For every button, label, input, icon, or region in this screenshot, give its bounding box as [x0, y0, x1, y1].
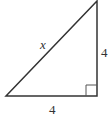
triangle-diagram: x 4 4 [0, 0, 110, 121]
right-angle-marker [86, 85, 97, 96]
vertical-leg-label: 4 [101, 45, 108, 60]
hypotenuse-label: x [39, 37, 46, 52]
right-triangle [6, 1, 97, 96]
horizontal-leg-label: 4 [49, 102, 56, 117]
